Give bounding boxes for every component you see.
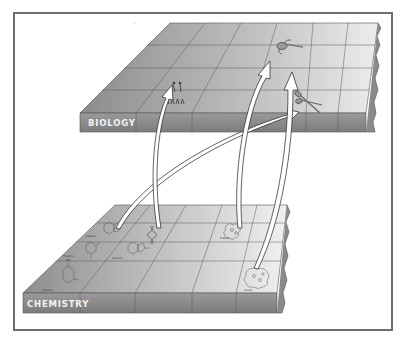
diagram-canvas: BIOLOGY — [0, 0, 406, 345]
protein-caption: Protein — [220, 237, 229, 240]
biology-label: BIOLOGY — [88, 118, 136, 128]
thymine-caption: Thymine — [63, 255, 75, 258]
guanine-caption: Guanine — [112, 257, 123, 260]
biology-platform: BIOLOGY — [80, 23, 381, 132]
chemistry-label: CHEMISTRY — [27, 299, 89, 309]
chemistry-top-surface — [23, 205, 287, 293]
cytosine-nh2-label: NH₂ — [66, 259, 71, 262]
cytosine-caption: Cytosine — [42, 289, 54, 292]
insulin-caption: Insulin — [244, 289, 253, 292]
adenine-caption: Adenine — [86, 235, 97, 238]
